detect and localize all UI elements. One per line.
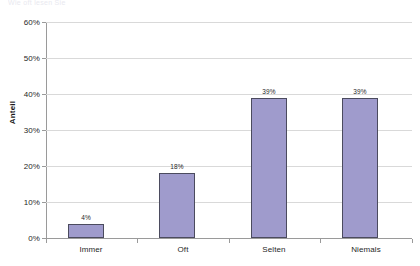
y-tick-mark-10 — [42, 202, 46, 203]
chart-title: Wie oft lesen Sie — [8, 0, 268, 8]
x-category-label-niemals: Niemals — [320, 245, 412, 254]
x-category-label-oft: Oft — [137, 245, 229, 254]
bar-oft[interactable] — [159, 173, 195, 238]
bar-chart: Wie oft lesen Sie Anteil 60% 50% 40% 30%… — [0, 0, 420, 266]
y-tick-mark-60 — [42, 22, 46, 23]
x-category-label-immer: Immer — [45, 245, 137, 254]
x-category-label-selten: Selten — [228, 245, 320, 254]
x-tick-4 — [412, 239, 413, 243]
y-tick-label-30: 30% — [0, 126, 40, 135]
data-label-immer: 4% — [56, 214, 116, 221]
x-tick-3 — [320, 239, 321, 243]
y-tick-label-0: 0% — [0, 234, 40, 243]
x-tick-0 — [46, 239, 47, 243]
y-tick-label-40: 40% — [0, 90, 40, 99]
bar-immer[interactable] — [68, 224, 104, 238]
y-tick-label-20: 20% — [0, 162, 40, 171]
gridline-50 — [46, 58, 412, 59]
y-tick-mark-40 — [42, 94, 46, 95]
plot-area — [46, 22, 412, 238]
data-label-niemals: 39% — [330, 88, 390, 95]
data-label-oft: 18% — [147, 163, 207, 170]
x-tick-2 — [229, 239, 230, 243]
bar-selten[interactable] — [251, 98, 287, 238]
y-tick-label-60: 60% — [0, 18, 40, 27]
y-tick-mark-50 — [42, 58, 46, 59]
y-tick-mark-30 — [42, 130, 46, 131]
data-label-selten: 39% — [239, 88, 299, 95]
y-tick-label-50: 50% — [0, 54, 40, 63]
bar-niemals[interactable] — [342, 98, 378, 238]
x-tick-1 — [137, 239, 138, 243]
y-tick-label-10: 10% — [0, 198, 40, 207]
y-tick-mark-20 — [42, 166, 46, 167]
gridline-60 — [46, 22, 412, 23]
